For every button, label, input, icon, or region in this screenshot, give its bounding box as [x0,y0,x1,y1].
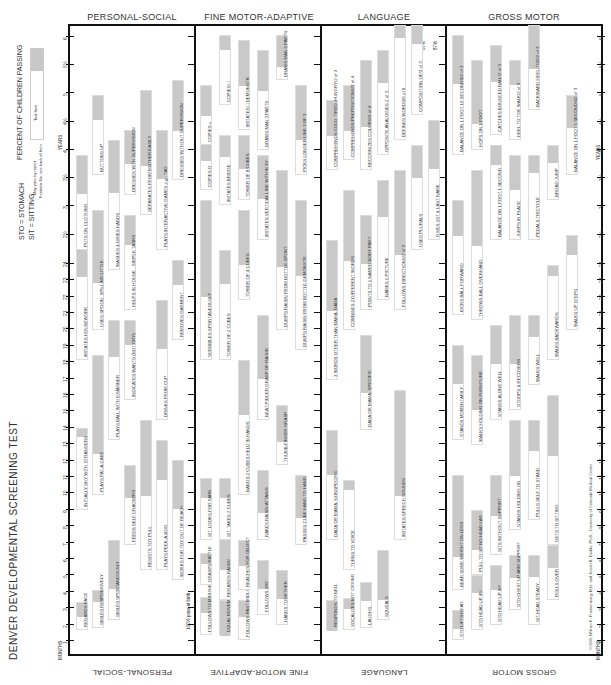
test-item-label: HANDS TOGETHER [283,581,288,622]
fine-motor-test-item: SCRIBBLES SPONTANEOUSLY [200,200,212,360]
age-tick [314,328,322,329]
abbrev-stomach: STO = STOMACH [18,183,25,240]
language-test-item: GIVES 1ST & LAST NAME [428,120,440,240]
years-label-left: YEARS [58,135,63,150]
test-item-label: BROAD JUMP [554,168,559,197]
test-item-label: SITS WITHOUT SUPPORT [497,498,502,552]
age-tick [66,378,74,379]
legend-title: PERCENT OF CHILDREN PASSING [16,45,23,160]
gross-motor-test-item: JUMPS IN PLACE [509,155,521,240]
percentile-shade [529,316,539,337]
age-tick [66,525,74,526]
age-tick [439,607,447,608]
language-test-item: DADA OR MAMA, SPECIFIC [360,335,372,430]
test-item-label: HELPS IN HOUSE - SIMPLE TASKS [131,235,136,307]
test-item-label: REACHES FOR OBJECT [245,537,250,587]
test-item-label: COPIES + [207,122,212,142]
test-item-label: COMPREHENDS PREPOSITIONS/3 of 4 [350,76,355,157]
fine-motor-test-item: COPIES O [200,140,212,190]
age-tick [66,92,74,93]
test-item-label: INITIALLY SHY WITH STRANGERS [83,436,88,507]
test-item-label: JUMPS IN PLACE [516,201,521,237]
test-item-label: COPIES □ [226,82,231,102]
gross-motor-test-item: THROWS BALL OVERHAND [471,170,483,320]
test-item-label: TOWER OF 2 CUBES [226,313,231,357]
age-tick [597,234,605,235]
gross-motor-test-item: STOOPS & RECOVERS [509,315,521,410]
fine-motor-test-item: SIT. TAKES 2 CUBES [219,478,231,540]
age-tick [597,460,605,461]
percentile-shade [510,61,520,85]
age-tick-label-left: 4 [62,592,68,595]
months-label-right: MONTHS [596,641,601,661]
test-item-label: INDICATES WANTS (NOT CRY) [131,333,136,397]
percentile-shade [378,51,388,83]
personal-social-test-item: DRESSES WITH SUPERVISION [124,130,136,195]
section-footer-personal-social: PERSONAL-SOCIAL [70,668,194,677]
fine-motor-test-item: TOWER OF 2 CUBES [219,250,231,360]
fine-motor-test-item: BANGS 2 CUBES HELD IN HANDS [238,360,250,495]
age-tick [314,92,322,93]
age-tick [314,234,322,235]
gross-motor-test-item: HEEL TO TOE WALK/2 of 3 [509,60,521,140]
percentile-shade [548,146,558,163]
language-test-item: COMBINES 2 DIFFERENT WORDS [343,190,355,330]
age-tick [439,312,447,313]
age-tick [597,92,605,93]
test-item-label: STANDS ALONE WELL [497,370,502,417]
gross-motor-test-item: STO HEAD UP 90° [490,565,502,625]
age-tick [66,640,74,641]
age-tick [188,121,196,122]
percentile-shade [491,146,501,165]
language-test-item: DADA OR MAMA, NONSPECIFIC [326,430,338,540]
age-tick [439,443,447,444]
personal-social-test-item: INITIALLY SHY WITH STRANGERS [76,428,88,510]
percentile-shade [220,136,230,157]
age-tick-label-right: 8 [598,526,604,529]
age-tick [314,492,322,493]
age-tick-label-left: 6 [62,37,68,40]
gross-motor-test-item: CATCHES BOUNCED BALL/2 of 3 [490,45,502,135]
age-tick [188,476,196,477]
personal-social-test-item: PLAYS BALL WITH EXAMINER [108,320,120,440]
language-test-item: VOCALIZES NOT CRYING [343,598,355,630]
test-item-label: SIT-HEAD STEADY [535,583,540,622]
percentile-shade [529,556,539,577]
age-tick-label-right: 9 [598,510,604,513]
test-item-label: BEAR SOME WEIGHT ON LEGS [459,521,464,587]
age-tick [439,205,447,206]
gross-motor-test-item: STANDS MOMENTARILY [452,345,464,440]
fine-motor-test-item: RAKES RAISIN ATTAINS [257,470,269,540]
percentile-shade [567,236,577,255]
test-item-label: FOLLOWS PAST MIDLINE [245,584,250,637]
birth-note: 100% pass at birth [186,593,191,630]
test-item-label: REGARDS RAISIN [226,559,231,597]
personal-social-test-item: RESISTS TOY PULL [140,420,152,570]
age-tick [314,410,322,411]
gross-motor-test-item: BALANCE ON 1 FOOT 10 SECONDS/2 of 3 [452,35,464,155]
test-item-label: STANDS MOMENTARILY [459,387,464,437]
age-tick [314,591,322,592]
fine-motor-test-item: DUMPS RAISIN FROM BOTTLE-DEMONSTR. [295,200,307,350]
percentile-shade [201,86,211,116]
age-tick [439,640,447,641]
gross-motor-test-item: STO LIFTS HEAD [452,610,464,640]
age-tick-label-left: 9 [62,510,68,513]
test-item-label: REGARDS FACE [83,593,88,627]
gross-motor-test-item: WALKS WELL [528,315,540,385]
test-item-label: DRINKS FROM CUP [163,376,168,417]
age-tick-label-left: 7 [62,543,68,546]
test-item-label: WASHES & DRIES HANDS [115,213,120,267]
age-tick [597,378,605,379]
age-tick [439,427,447,428]
test-item-label: PULLS SELF TO STAND [535,468,540,517]
language-test-item: FOLLOWS DIRECTIONS/2 of 3 [394,170,406,310]
test-item-label: GRASPS RATTLE [207,546,212,582]
age-tick [314,607,322,608]
legend-test-item: Test Item [33,105,38,121]
percentile-shade [344,191,354,261]
percentile-shade [491,326,501,364]
percentile-shade [395,171,405,255]
test-item-label: STO CHEST UP ARM SUPPORT [516,542,521,607]
language-test-item: DEFINES WORDS/6 of 9 [394,25,406,140]
